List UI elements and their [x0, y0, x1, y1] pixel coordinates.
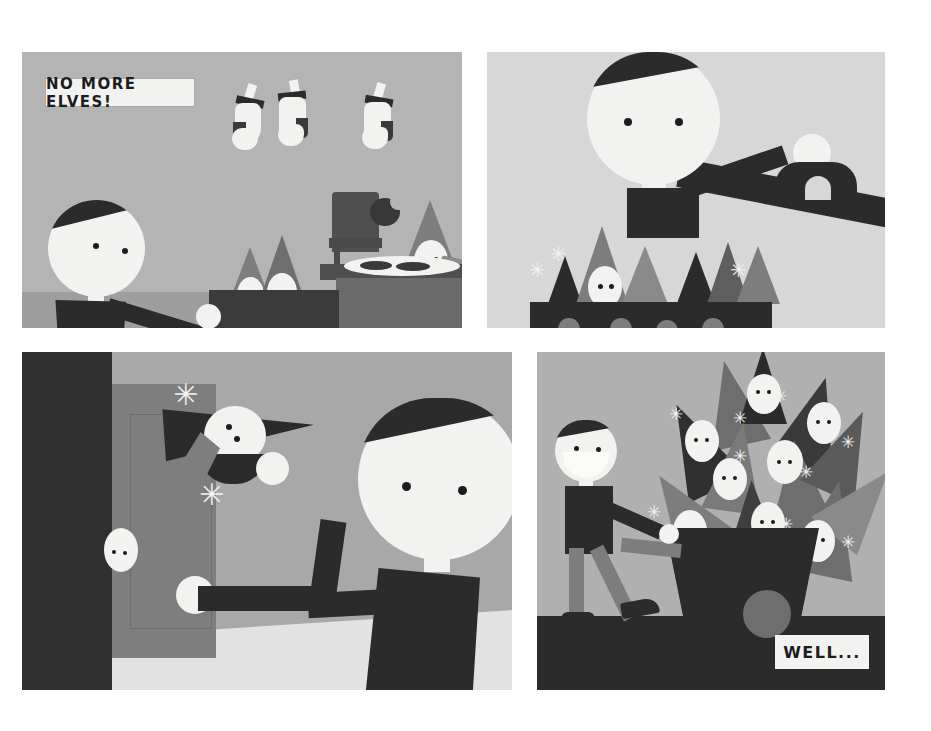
pile-face-5-eye-r [733, 476, 737, 480]
pile-hand-2-icon: ✳ [669, 406, 683, 423]
pile-face-2 [807, 402, 841, 444]
crate-elf-hat-3 [622, 246, 668, 304]
wheelbarrow-tub [659, 528, 819, 624]
crate-hand-left2-icon: ✳ [550, 244, 567, 264]
pile-hand-1-icon: ✳ [733, 410, 747, 427]
outside-elf-eye-right [123, 551, 127, 555]
outside-elf-eye-left [112, 550, 116, 554]
flung-elf-eye-right [234, 436, 240, 442]
door-jamb [22, 352, 112, 690]
plate-cookie-2 [396, 262, 430, 271]
crate-elf-eye-left [598, 284, 603, 289]
bench-front [209, 290, 339, 328]
stocking-3-toe [362, 127, 388, 149]
pile-face-1-eye-r [767, 390, 771, 394]
pile-face-8-eye-r [821, 538, 825, 542]
pile-hand-9-icon: ✳ [841, 534, 855, 551]
crate-hand-right-icon: ✳ [730, 260, 747, 280]
santa-p3-eye-left [402, 482, 411, 491]
santa-p2-eye-right [675, 118, 683, 126]
crate-hand-left-icon: ✳ [529, 260, 546, 280]
panel-2-caged-elves: ✳ ✳ ✳ [487, 52, 885, 328]
pile-face-7-eye-r [771, 520, 775, 524]
caption-well-text: WELL... [783, 643, 861, 662]
outside-elf-face [104, 528, 138, 572]
pile-face-5-eye-l [722, 476, 726, 480]
pile-hand-3-icon: ✳ [773, 388, 787, 405]
pile-face-4 [767, 440, 803, 484]
panel-4-wheelbarrow: ✳ ✳ ✳ ✳ ✳ ✳ ✳ ✳ ✳ [537, 352, 885, 690]
helper-p2-armpit-gap [805, 176, 831, 200]
wheelbarrow-wheel [743, 590, 791, 638]
santa-p4-eye-left [574, 446, 579, 451]
santa-p3-forearm [198, 586, 320, 611]
comic-strip: ✳ NO MORE ELVES! [0, 0, 931, 731]
pile-face-3-eye-l [694, 438, 698, 442]
pile-face-7-eye-l [760, 520, 764, 524]
flung-elf-hand-down-icon: ✳ [199, 480, 224, 510]
santa-p4-leg-back [569, 548, 584, 618]
pile-face-4-eye-r [788, 460, 792, 464]
santa-p4-body [565, 486, 613, 554]
panel-1-dinner-table: ✳ NO MORE ELVES! [22, 52, 462, 328]
flung-elf-eye-left [226, 424, 232, 430]
santa-p1-eye-left [93, 243, 99, 249]
pile-face-1-eye-l [756, 390, 760, 394]
santa-p4-shoe-back [561, 612, 595, 624]
caption-well: WELL... [775, 635, 869, 669]
caption-no-more-elves: NO MORE ELVES! [46, 79, 194, 106]
stocking-1-toe [232, 128, 258, 150]
pile-hand-6-icon: ✳ [733, 448, 747, 465]
pile-face-2-eye-l [816, 420, 820, 424]
crate-elf-eye-right [609, 284, 614, 289]
santa-p1-eye-right [122, 248, 128, 254]
pile-face-4-eye-l [777, 460, 781, 464]
plate-cookie-1 [360, 261, 392, 270]
santa-p3-eye-right [458, 486, 467, 495]
pile-hand-4-icon: ✳ [841, 434, 855, 451]
pile-face-2-eye-r [827, 420, 831, 424]
santa-p1-hand-upper [196, 304, 221, 328]
cookie-bite [390, 194, 406, 210]
santa-p4-hand [659, 524, 679, 544]
pile-hand-5-icon: ✳ [799, 464, 813, 481]
flung-elf-hand-up-icon: ✳ [173, 380, 198, 410]
flung-elf-hand-ball [256, 452, 289, 485]
caption-no-more-elves-text: NO MORE ELVES! [46, 75, 194, 111]
panel-3-throwing-out: ✳ ✳ [22, 352, 512, 690]
stocking-2-toe [278, 124, 304, 146]
pile-face-3-eye-r [705, 438, 709, 442]
santa-p2-eye-left [624, 118, 632, 126]
santa-p3-neck [424, 554, 450, 572]
table-front [336, 278, 462, 328]
pile-face-3 [685, 420, 719, 462]
